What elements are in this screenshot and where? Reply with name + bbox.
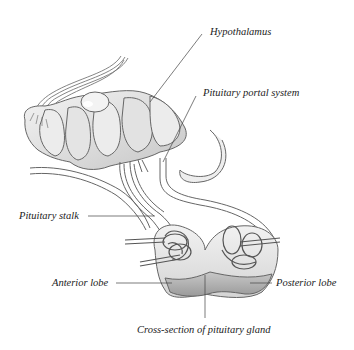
hypothalamus-mass	[24, 91, 186, 170]
label-pituitary-stalk: Pituitary stalk	[19, 210, 79, 222]
label-posterior-lobe: Posterior lobe	[276, 277, 336, 289]
label-cross-section: Cross-section of pituitary gland	[137, 324, 271, 336]
label-hypothalamus: Hypothalamus	[210, 26, 271, 38]
label-anterior-lobe: Anterior lobe	[52, 277, 108, 289]
anatomy-illustration	[0, 0, 354, 350]
pituitary-gland	[154, 225, 278, 298]
pituitary-diagram: Hypothalamus Pituitary portal system Pit…	[0, 0, 354, 350]
label-pituitary-portal-system: Pituitary portal system	[203, 87, 299, 99]
